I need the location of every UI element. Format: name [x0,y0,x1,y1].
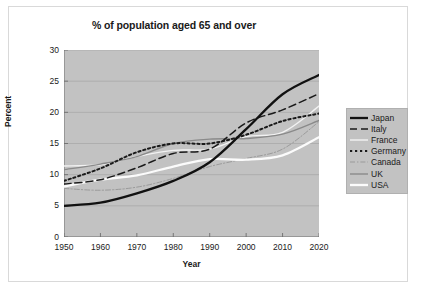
legend-label: Italy [369,124,387,134]
x-tick-label: 1970 [117,242,157,252]
x-axis-label: Year [64,259,319,269]
legend-label: France [369,135,397,145]
legend-item-france[interactable]: France [349,134,405,145]
series-line-germany [64,114,319,181]
x-tick-label: 2020 [299,242,339,252]
x-tick-label: 2000 [226,242,266,252]
chart-legend: JapanItalyFranceGermanyCanadaUKUSA [346,108,408,194]
x-tick-label: 1950 [44,242,84,252]
y-tick-label: 30 [33,45,59,55]
y-tick-label: 10 [33,169,59,179]
x-tick-label: 1990 [190,242,230,252]
y-tick-label: 0 [33,232,59,242]
legend-label: Germany [369,146,406,156]
plot-lines [64,50,319,237]
legend-item-canada[interactable]: Canada [349,157,405,168]
legend-item-germany[interactable]: Germany [349,146,405,157]
legend-swatch-germany-icon [349,146,369,156]
legend-item-usa[interactable]: USA [349,179,405,190]
chart-title: % of population aged 65 and over [9,19,339,31]
legend-swatch-uk-icon [349,169,369,179]
legend-label: UK [369,169,383,179]
y-tick-label: 25 [33,76,59,86]
chart-frame: % of population aged 65 and over Percent… [8,6,408,282]
legend-swatch-france-icon [349,135,369,145]
y-tick-label: 5 [33,200,59,210]
legend-swatch-italy-icon [349,124,369,134]
y-axis-label: Percent [3,96,13,127]
x-tick-label: 2010 [263,242,303,252]
y-tick-label: 20 [33,107,59,117]
y-tick-label: 15 [33,138,59,148]
legend-label: Japan [369,113,394,123]
legend-label: Canada [369,157,401,167]
legend-swatch-canada-icon [349,157,369,167]
legend-item-japan[interactable]: Japan [349,112,405,123]
x-tick-label: 1960 [80,242,120,252]
plot-area [64,50,319,237]
series-line-italy [64,94,319,184]
legend-item-italy[interactable]: Italy [349,123,405,134]
x-tick-label: 1980 [153,242,193,252]
legend-item-uk[interactable]: UK [349,168,405,179]
legend-swatch-japan-icon [349,113,369,123]
legend-label: USA [369,180,388,190]
legend-swatch-usa-icon [349,180,369,190]
